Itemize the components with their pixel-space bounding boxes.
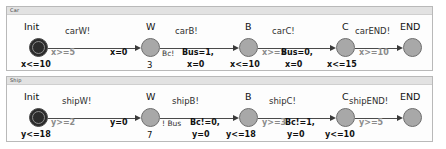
transition-sync-shipb: shipB! [172, 96, 199, 106]
arrow-icon-c-end [397, 115, 403, 121]
state-label-init: Init [24, 21, 39, 32]
arrow-icon-init-w [135, 45, 141, 51]
transition-guard-b-c: y>=3 [262, 118, 286, 127]
panel-title-car: Car [10, 6, 19, 15]
automaton-canvas-car: Init W B C END carW! carB! carC! carEND!… [7, 15, 432, 70]
transition-sync-carend: carEND! [355, 26, 390, 36]
transition-sync-carc: carC! [272, 26, 295, 36]
transition-sync-shipend: shipEND! [349, 96, 388, 106]
state-label-c: C [342, 91, 349, 102]
state-node-init[interactable] [29, 108, 48, 127]
panel-title-ship: Ship [10, 76, 22, 85]
transition-assign-w-b-line1: Bus=1, [182, 48, 214, 57]
state-node-w[interactable] [141, 38, 160, 57]
state-label-w: W [146, 91, 155, 102]
automaton-canvas-ship: Init W B C END shipW! shipB! shipC! ship… [7, 85, 432, 141]
transition-assign-w-b-line2: x=0 [187, 60, 204, 69]
arrow-icon-w-b [233, 45, 239, 51]
transition-sync-carw: carW! [65, 26, 90, 36]
state-label-init: Init [24, 91, 39, 102]
transition-assign-w-b-line1: Bc!=0, [190, 118, 220, 127]
state-label-end: END [400, 91, 420, 102]
transition-guard-init-w: x>=5 [51, 48, 75, 57]
state-label-c: C [342, 21, 349, 32]
arrow-icon-c-end [397, 45, 403, 51]
transition-guard-c-end: y>=5 [359, 118, 383, 127]
transition-channel-w: ! Bus [162, 119, 181, 128]
transition-sync-shipc: shipC! [269, 96, 296, 106]
panel-titlebar-ship[interactable]: Ship [7, 77, 432, 85]
transition-sync-shipw: shipW! [62, 96, 91, 106]
state-node-c[interactable] [336, 108, 355, 127]
state-invariant-b: x<=10 [230, 60, 260, 69]
transition-guard-c-end: x>=10 [359, 48, 389, 57]
state-node-end[interactable] [403, 108, 422, 127]
transition-assign-b-c-line2: y=0 [287, 130, 304, 139]
state-count-w: 7 [147, 130, 152, 140]
state-invariant-init: x<=10 [21, 60, 51, 69]
arrow-icon-b-c [330, 115, 336, 121]
arrow-icon-init-w [135, 115, 141, 121]
state-invariant-c: x<=15 [327, 60, 357, 69]
state-label-end: END [400, 21, 420, 32]
state-count-w: 3 [147, 60, 152, 70]
state-invariant-init: y<=18 [21, 130, 51, 139]
state-node-end[interactable] [403, 38, 422, 57]
state-node-b[interactable] [239, 108, 258, 127]
state-node-b[interactable] [239, 38, 258, 57]
state-invariant-c: y<=10 [325, 130, 355, 139]
panel-titlebar-car[interactable]: Car [7, 7, 432, 15]
transition-guard-init-w: y>=2 [51, 118, 75, 127]
state-label-b: B [245, 21, 252, 32]
arrow-icon-w-b [233, 115, 239, 121]
state-node-c[interactable] [336, 38, 355, 57]
state-label-b: B [245, 91, 252, 102]
transition-assign-b-c-line1: Bc!=1, [285, 118, 315, 127]
transition-channel-w: Bc! [162, 49, 174, 58]
transition-assign-init-w: x=0 [110, 48, 127, 57]
state-invariant-b: y<=18 [226, 130, 256, 139]
transition-assign-b-c-line1: Bus=0, [281, 48, 313, 57]
automaton-panel-ship: Ship Init W B C END shipW! shipB! shipC!… [6, 76, 433, 142]
transition-assign-w-b-line2: y=0 [192, 130, 209, 139]
state-node-init[interactable] [29, 38, 48, 57]
transition-assign-b-c-line2: x=0 [285, 60, 302, 69]
state-node-w[interactable] [141, 108, 160, 127]
automaton-panel-car: Car Init W B C END carW! carB! carC! car… [6, 6, 433, 71]
state-label-w: W [146, 21, 155, 32]
transition-assign-init-w: y=0 [110, 118, 127, 127]
transition-sync-carb: carB! [175, 26, 198, 36]
arrow-icon-b-c [330, 45, 336, 51]
